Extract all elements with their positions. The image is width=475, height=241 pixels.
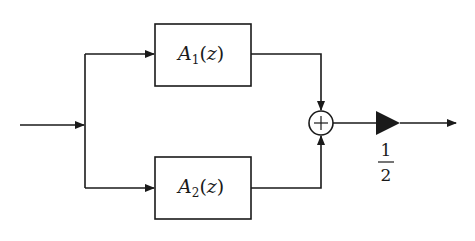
block-a2-label: A2(z)	[178, 175, 224, 200]
block-a2-var: z	[207, 175, 217, 197]
diagram-canvas	[0, 0, 475, 241]
path-a2-to-summer	[251, 136, 321, 188]
gain-denominator: 2	[376, 165, 396, 185]
gain-numerator: 1	[376, 140, 396, 160]
path-a1-to-summer	[251, 54, 321, 110]
block-diagram: A1(z) A2(z) 1 2	[0, 0, 475, 241]
block-a2-name: A	[178, 175, 192, 197]
block-a1-label: A1(z)	[178, 42, 224, 67]
block-a1-open-paren: (	[199, 42, 206, 64]
block-a2-open-paren: (	[199, 175, 206, 197]
block-a1-var: z	[207, 42, 217, 64]
block-a2-close-paren: )	[217, 175, 224, 197]
block-a1-close-paren: )	[217, 42, 224, 64]
gain-triangle-icon	[376, 111, 400, 135]
block-a1-name: A	[178, 42, 192, 64]
